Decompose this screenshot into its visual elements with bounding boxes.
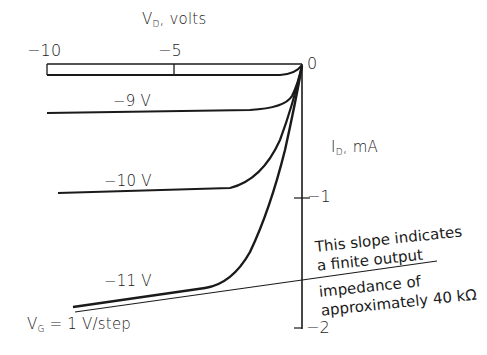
curve-label-m10v: −10 V xyxy=(104,172,152,190)
x-tick-label-m10: −10 xyxy=(27,41,61,60)
curve-label-m9v: −9 V xyxy=(113,92,151,110)
step-label: VG = 1 V/step xyxy=(27,315,131,334)
curve-label-m11v: −11 V xyxy=(104,272,152,290)
y-axis-title: ID, mA xyxy=(331,138,378,157)
y-tick-label-m1: −1 xyxy=(307,187,331,206)
origin-label: 0 xyxy=(307,54,317,73)
x-axis-title: VD, volts xyxy=(142,10,206,29)
curve-m10v xyxy=(58,66,302,193)
x-tick-label-m5: −5 xyxy=(158,41,182,60)
y-tick-label-m2: −2 xyxy=(306,318,330,337)
